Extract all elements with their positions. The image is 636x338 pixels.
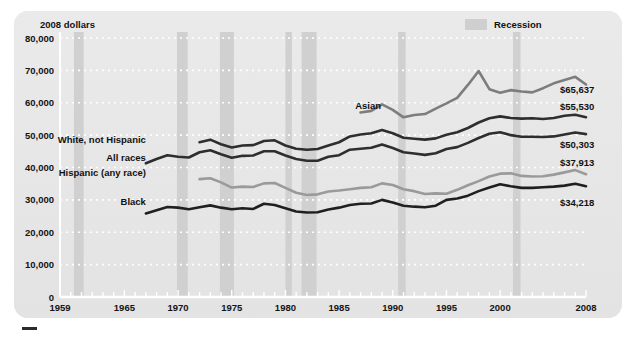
series-label-black: Black <box>121 196 147 207</box>
x-axis-tick-label: 1965 <box>114 302 136 313</box>
series-label-asian: Asian <box>355 100 381 111</box>
y-axis-title: 2008 dollars <box>40 19 95 30</box>
series-line-hispanic-any-race <box>200 170 586 195</box>
y-axis-tick-label: 0 <box>49 292 54 303</box>
x-axis-tick-label: 1970 <box>168 302 189 313</box>
chart-screenshot: 010,00020,00030,00040,00050,00060,00070,… <box>0 0 636 338</box>
page-artifact-mark <box>22 327 37 330</box>
recession-band <box>177 32 188 297</box>
series-label-white-not-hispanic: White, not Hispanic <box>58 134 146 145</box>
recession-band <box>302 32 317 297</box>
recession-band <box>220 32 234 297</box>
income-by-race-line-chart: 010,00020,00030,00040,00050,00060,00070,… <box>0 0 636 338</box>
x-axis-tick-label: 2000 <box>490 302 511 313</box>
recession-band <box>398 32 406 297</box>
x-axis-tick-label: 1959 <box>49 302 70 313</box>
end-value-label-all-races: $50,303 <box>560 139 594 150</box>
x-axis-tick-label: 2008 <box>575 302 596 313</box>
y-axis-tick-label: 20,000 <box>25 227 54 238</box>
x-axis-tick-label: 1985 <box>329 302 351 313</box>
x-axis-tick-label: 1990 <box>382 302 403 313</box>
x-axis-tick-label: 1980 <box>275 302 296 313</box>
y-axis-tick-label: 50,000 <box>25 130 54 141</box>
y-axis-tick-label: 70,000 <box>25 65 54 76</box>
legend-label-recession: Recession <box>494 19 542 30</box>
series-line-white-not-hispanic <box>200 115 586 150</box>
y-axis-tick-label: 80,000 <box>25 33 54 44</box>
y-axis-tick-label: 30,000 <box>25 194 54 205</box>
legend-swatch-recession <box>465 19 487 30</box>
series-line-asian <box>361 71 586 117</box>
end-value-label-hispanic-any-race: $37,913 <box>560 157 594 168</box>
series-label-hispanic-any-race: Hispanic (any race) <box>59 167 146 178</box>
end-value-label-white-not-hispanic: $55,530 <box>560 101 594 112</box>
recession-band <box>513 32 521 297</box>
y-axis-tick-label: 60,000 <box>25 97 54 108</box>
x-axis-tick-label: 1975 <box>221 302 243 313</box>
series-label-all-races: All races <box>106 152 146 163</box>
y-axis-tick-label: 10,000 <box>25 259 54 270</box>
recession-band <box>285 32 291 297</box>
recession-band <box>74 32 84 297</box>
end-value-label-black: $34,218 <box>560 197 594 208</box>
x-axis-tick-label: 1995 <box>436 302 458 313</box>
end-value-label-asian: $65,637 <box>560 84 594 95</box>
y-axis-tick-label: 40,000 <box>25 162 54 173</box>
